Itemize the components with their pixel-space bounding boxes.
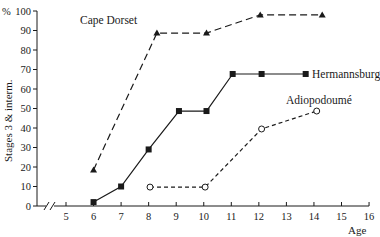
x-tick-label: 9 [174, 211, 179, 222]
x-tick-label: 11 [226, 211, 236, 222]
x-axis-title: Age [348, 224, 366, 236]
y-tick-label: 50 [21, 103, 32, 114]
y-tick-label: 20 [21, 162, 32, 173]
series-label-hermannsburg: Hermannsburg [312, 68, 380, 81]
x-tick-label: 15 [336, 211, 347, 222]
square-marker-icon [91, 199, 97, 205]
labels-group: Cape Dorset Hermannsburg Adiopodoumé Age… [2, 6, 380, 236]
series-line-hermannsburg [94, 74, 306, 202]
series-label-adiopodoume: Adiopodoumé [286, 94, 352, 107]
series-label-cape-dorset: Cape Dorset [80, 14, 138, 27]
triangle-marker-icon [319, 11, 326, 17]
y-tick-label: 10 [21, 181, 32, 192]
x-tick-label: 6 [91, 211, 96, 222]
square-marker-icon [259, 71, 265, 77]
circle-marker-icon [314, 108, 320, 114]
y-tick-label: 80 [21, 45, 32, 56]
square-marker-icon [176, 108, 182, 114]
series-line-cape-dorset [94, 15, 323, 170]
x-tick-label: 7 [118, 211, 123, 222]
line-chart: 0102030405060708090100567891011121314151… [0, 0, 380, 237]
y-tick-label: 60 [21, 84, 32, 95]
y-tick-label: 0 [26, 201, 31, 212]
y-tick-label: 100 [15, 6, 31, 17]
y-tick-label: 90 [21, 25, 32, 36]
square-marker-icon [303, 71, 309, 77]
y-axis-title: Stages 3 & interm. [2, 79, 14, 162]
x-tick-label: 10 [199, 211, 210, 222]
triangle-marker-icon [90, 166, 97, 172]
circle-marker-icon [202, 184, 208, 190]
axes: 0102030405060708090100567891011121314151… [15, 6, 374, 223]
square-marker-icon [204, 108, 210, 114]
x-tick-label: 14 [309, 211, 320, 222]
x-tick-label: 16 [364, 211, 375, 222]
square-marker-icon [230, 71, 236, 77]
circle-marker-icon [147, 184, 153, 190]
circle-marker-icon [259, 126, 265, 132]
y-tick-label: 30 [21, 142, 32, 153]
square-marker-icon [118, 184, 124, 190]
x-tick-label: 5 [63, 211, 68, 222]
y-unit-label: % [2, 6, 11, 17]
x-tick-label: 13 [281, 211, 292, 222]
series-group [90, 11, 326, 205]
series-line-adiopodoum [150, 111, 317, 187]
x-tick-label: 12 [254, 211, 265, 222]
triangle-marker-icon [153, 30, 160, 36]
y-tick-label: 40 [21, 123, 32, 134]
y-tick-label: 70 [21, 64, 32, 75]
square-marker-icon [146, 146, 152, 152]
x-tick-label: 8 [146, 211, 151, 222]
